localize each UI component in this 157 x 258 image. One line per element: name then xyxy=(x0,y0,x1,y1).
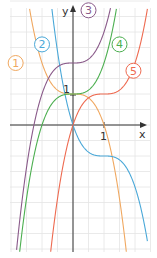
curve-label-text-2: 2 xyxy=(39,38,46,51)
cubic-functions-plot: x y 1 1 12345 xyxy=(0,0,157,258)
curve-3 xyxy=(17,8,111,250)
curve-label-text-3: 3 xyxy=(85,4,92,17)
curve-label-text-5: 5 xyxy=(130,65,137,78)
curve-labels: 12345 xyxy=(8,3,141,78)
curve-label-text-4: 4 xyxy=(116,38,123,51)
curve-label-text-1: 1 xyxy=(12,57,19,70)
x-axis-label: x xyxy=(139,128,146,141)
y-axis-label: y xyxy=(62,5,69,18)
y-axis-arrow-icon xyxy=(70,5,76,12)
grid xyxy=(10,1,151,252)
